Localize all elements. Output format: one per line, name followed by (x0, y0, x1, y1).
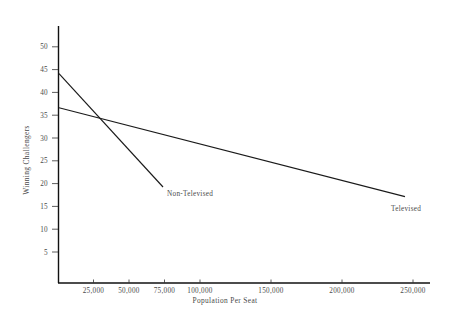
y-tick-label-25: 25 (40, 157, 48, 165)
y-tick-marks (52, 47, 58, 252)
y-tick-label-35: 35 (40, 112, 48, 120)
x-axis-title: Population Per Seat (193, 296, 259, 305)
y-tick-label-45: 45 (40, 66, 48, 74)
y-tick-label-40: 40 (40, 89, 48, 97)
y-tick-label-30: 30 (40, 135, 48, 143)
y-tick-label-5: 5 (44, 249, 48, 257)
x-tick-label-250000: 250,000 (400, 287, 426, 295)
y-tick-label-15: 15 (40, 203, 48, 211)
x-tick-label-50000: 50,000 (118, 287, 140, 295)
x-tick-label-100000: 100,000 (187, 287, 213, 295)
chart-figure: 5 10 15 20 25 30 35 40 45 50 25,000 50,0… (0, 0, 454, 318)
x-tick-label-75000: 75,000 (154, 287, 176, 295)
series-line-televised (59, 108, 405, 197)
y-axis-title: Winning Challengers (22, 125, 31, 194)
y-tick-label-10: 10 (40, 226, 48, 234)
x-tick-label-150000: 150,000 (258, 287, 284, 295)
y-tick-label-20: 20 (40, 180, 48, 188)
x-tick-label-25000: 25,000 (83, 287, 105, 295)
series-label-non-televised: Non-Televised (167, 190, 213, 198)
x-tick-label-200000: 200,000 (329, 287, 355, 295)
y-tick-label-50: 50 (40, 43, 48, 51)
series-label-televised: Televised (391, 205, 421, 213)
line-chart: 5 10 15 20 25 30 35 40 45 50 25,000 50,0… (0, 0, 454, 318)
